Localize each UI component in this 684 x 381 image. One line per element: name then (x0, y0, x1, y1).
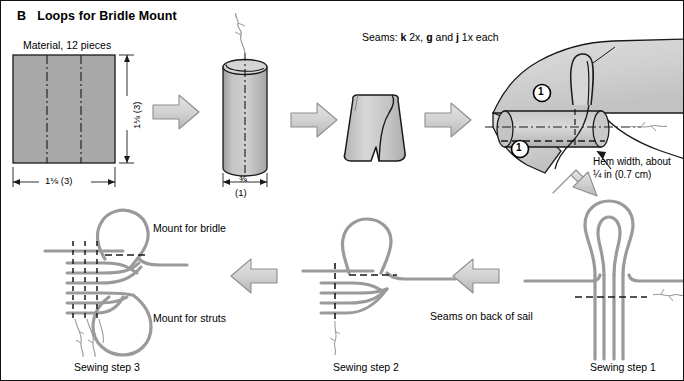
fabric-tube-group (223, 13, 267, 187)
sail-loop (571, 54, 594, 105)
mount-for-bridle-label: Mount for bridle (153, 222, 226, 234)
step3-sail-line-right (139, 259, 187, 265)
sewing-step-2-caption: Sewing step 2 (333, 361, 399, 373)
folded-tube-group (344, 95, 405, 161)
material-swatch-group (13, 55, 134, 189)
panel-letter: B (17, 9, 26, 23)
panel-title: BLoops for Bridle Mount (17, 9, 177, 23)
material-rect (13, 55, 115, 163)
arrow-left-step2-to-step3 (231, 259, 277, 293)
sewing-step-1-group (525, 201, 684, 359)
step2-loop (342, 219, 391, 273)
material-height-dimension: 1⅛ (3) (132, 102, 143, 129)
step1-inner-loop (598, 217, 620, 275)
material-width-dimension: 1⅛ (3) (45, 176, 72, 187)
sail-marker-label-2: 1 (516, 142, 522, 154)
step3-strand-6 (67, 297, 123, 313)
seams-note: Seams: k 2x, g and j 1x each (362, 31, 499, 43)
arrow-right-folded-to-sail (425, 103, 471, 137)
seams-and: and (433, 31, 456, 43)
step2-sail-line-right (387, 273, 455, 279)
tube-dim-arrowhead-right (260, 179, 267, 185)
tube-width-dimension-metric: (1) (235, 188, 247, 199)
sail-assembly-group (485, 39, 684, 173)
material-caption: Material, 12 pieces (23, 39, 111, 51)
sail-marker-label-1: 1 (538, 86, 544, 98)
material-dim-arrowhead-right (108, 179, 115, 185)
arrow-right-tube-to-folded (291, 103, 337, 137)
step3-thread-1 (75, 319, 83, 357)
sail-right-edge (601, 113, 684, 159)
step1-loop (585, 201, 633, 275)
arrow-left-step1-to-step2 (453, 259, 499, 293)
folded-tube-body (344, 95, 405, 161)
sewing-step-2-group (303, 219, 455, 355)
diagram-canvas (1, 1, 684, 381)
sewing-step-3-caption: Sewing step 3 (74, 361, 140, 373)
mount-for-struts-label: Mount for struts (153, 312, 226, 324)
step1-thread-wisp (653, 294, 684, 296)
figure-panel-b: BLoops for Bridle Mount Material, 12 pie… (0, 0, 684, 381)
tube-width-dimension: ⅜ (239, 174, 247, 185)
hem-width-line-1: Hem width, about (593, 156, 671, 169)
sail-thread-wisp (627, 125, 667, 127)
material-dim-arrowhead-bottom (124, 156, 130, 163)
panel-title-text: Loops for Bridle Mount (37, 9, 177, 23)
step2-thread-tail (334, 321, 336, 355)
seam-j-qty: 1x each (459, 31, 499, 43)
step1-strands (595, 275, 623, 359)
step1-sail-line-right (629, 275, 684, 281)
step1-sail-line-left (525, 275, 600, 281)
tube-dim-arrowhead-left (223, 179, 230, 185)
arrow-down-right-sail-to-step1 (553, 170, 597, 196)
arrow-right-material-to-tube (153, 95, 199, 129)
step2-strand-1 (321, 283, 383, 291)
material-dim-arrowhead-left (13, 179, 20, 185)
hem-width-callout: Hem width, about ¼ in (0.7 cm) (593, 156, 671, 181)
step3-thread-3 (99, 319, 104, 343)
material-dim-arrowhead-top (124, 55, 130, 62)
seams-note-prefix: Seams: (362, 31, 401, 43)
step3-strand-4 (67, 293, 131, 295)
seam-k-qty: 2x, (406, 31, 426, 43)
seams-on-back-label: Seams on back of sail (430, 310, 533, 322)
sewing-step-1-caption: Sewing step 1 (590, 361, 656, 373)
hem-width-line-2: ¼ in (0.7 cm) (593, 169, 671, 182)
